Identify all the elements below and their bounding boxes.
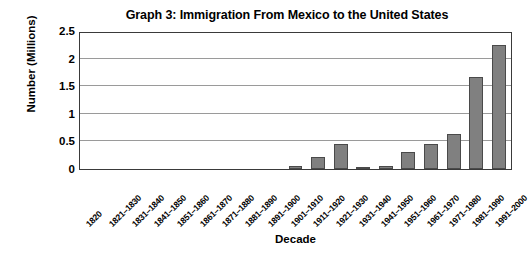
bar-slot (216, 33, 239, 169)
bar-slot (284, 33, 307, 169)
bar (424, 144, 438, 169)
bar-series (80, 33, 511, 169)
bar-slot (352, 33, 375, 169)
bar-slot (194, 33, 217, 169)
bar-slot (420, 33, 443, 169)
bar-slot (375, 33, 398, 169)
bar-slot (307, 33, 330, 169)
y-tick-label: 2.5 (35, 26, 75, 38)
bar (334, 144, 348, 169)
y-tick-label: 1 (35, 109, 75, 121)
y-tick-label: 1.5 (35, 81, 75, 93)
y-tick-label: 2 (35, 54, 75, 66)
chart-title: Graph 3: Immigration From Mexico to the … (56, 8, 518, 22)
bar (492, 45, 506, 169)
x-axis-title: Decade (79, 233, 512, 245)
y-tick-label: 0 (35, 164, 75, 176)
bar (469, 77, 483, 169)
bar (289, 166, 303, 169)
bar (311, 157, 325, 169)
x-tick-label: 1820 (84, 209, 104, 229)
bar-slot (397, 33, 420, 169)
bar-slot (149, 33, 172, 169)
bar (447, 134, 461, 169)
plot-area (79, 32, 512, 170)
bar (379, 166, 393, 169)
bar (356, 167, 370, 169)
y-tick-label: 0.5 (35, 136, 75, 148)
bar-slot (487, 33, 510, 169)
bar-slot (171, 33, 194, 169)
bar-slot (442, 33, 465, 169)
bar-slot (81, 33, 104, 169)
bar-slot (262, 33, 285, 169)
bar-slot (104, 33, 127, 169)
bar-slot (329, 33, 352, 169)
bar-slot (465, 33, 488, 169)
x-axis-tick-labels: 18201821–18301831–18401841–18501851–1860… (79, 171, 512, 229)
bar-slot (126, 33, 149, 169)
bar-slot (239, 33, 262, 169)
bar (401, 152, 415, 169)
